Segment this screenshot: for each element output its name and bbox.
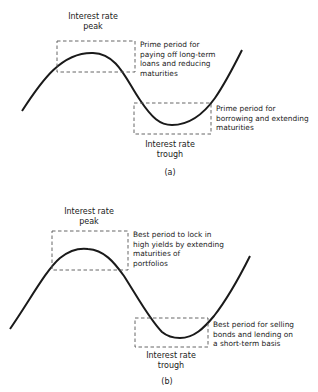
trough-label-b-line2: trough (131, 361, 211, 371)
peak-note-a-line2: paying off long-term (140, 50, 216, 60)
peak-label-b-line1: Interest rate (49, 207, 129, 217)
peak-note-a-line4: maturities (140, 69, 216, 79)
peak-note-b-line3: maturities of (133, 249, 224, 259)
caption-a: (a) (150, 168, 190, 178)
trough-note-b-line2: bonds and lending on (213, 330, 294, 340)
peak-note-a: Prime period for paying off long-term lo… (140, 40, 216, 78)
trough-label-a-line1: Interest rate (130, 140, 210, 150)
peak-note-b-line4: portfolios (133, 259, 224, 269)
trough-note-a-line2: borrowing and extending (216, 114, 309, 124)
peak-label-b-line2: peak (49, 217, 129, 227)
peak-note-a-line1: Prime period for (140, 40, 216, 50)
trough-note-b-line1: Best period for selling (213, 320, 294, 330)
caption-b: (b) (147, 377, 187, 387)
trough-label-b: Interest rate trough (131, 351, 211, 371)
peak-label-b: Interest rate peak (49, 207, 129, 227)
peak-box-b (52, 231, 128, 270)
peak-note-b-line1: Best period to lock in (133, 230, 224, 240)
trough-note-a-line3: maturities (216, 123, 309, 133)
trough-label-a: Interest rate trough (130, 140, 210, 160)
trough-note-b-line3: a short-term basis (213, 339, 294, 349)
peak-box-a (57, 41, 135, 72)
peak-label-a: Interest rate peak (53, 12, 133, 32)
peak-label-a-line1: Interest rate (53, 12, 133, 22)
peak-note-a-line3: loans and reducing (140, 59, 216, 69)
peak-note-b-line2: high yields by extending (133, 240, 224, 250)
trough-note-a: Prime period for borrowing and extending… (216, 104, 309, 133)
trough-label-a-line2: trough (130, 150, 210, 160)
trough-label-b-line1: Interest rate (131, 351, 211, 361)
peak-note-b: Best period to lock in high yields by ex… (133, 230, 224, 268)
trough-note-b: Best period for selling bonds and lendin… (213, 320, 294, 349)
peak-label-a-line2: peak (53, 22, 133, 32)
trough-note-a-line1: Prime period for (216, 104, 309, 114)
